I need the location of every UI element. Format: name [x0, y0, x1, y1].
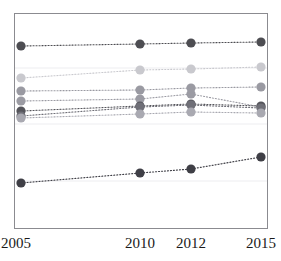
data-point-series-2-2012[interactable]: [186, 64, 195, 73]
data-point-series-3-2010[interactable]: [135, 85, 144, 94]
data-point-series-4-2005[interactable]: [16, 96, 25, 105]
x-tick-label-2010: 2010: [125, 236, 155, 251]
data-point-series-7-2015[interactable]: [256, 108, 265, 117]
data-point-series-2-2005[interactable]: [16, 73, 25, 82]
data-point-series-2-2015[interactable]: [256, 62, 265, 71]
data-point-series-8-2005[interactable]: [16, 178, 25, 187]
data-point-series-1-2010[interactable]: [135, 39, 144, 48]
data-point-series-7-2012[interactable]: [186, 107, 195, 116]
data-point-series-7-2005[interactable]: [16, 113, 25, 122]
slopegraph-chart: 2005201020122015: [0, 0, 281, 261]
data-point-series-1-2005[interactable]: [16, 41, 25, 50]
data-point-series-8-2012[interactable]: [186, 164, 195, 173]
x-tick-label-2015: 2015: [246, 236, 276, 251]
data-point-series-4-2012[interactable]: [186, 89, 195, 98]
gridlines: [14, 68, 267, 181]
x-tick-label-2012: 2012: [176, 236, 206, 251]
data-point-series-3-2015[interactable]: [256, 82, 265, 91]
data-point-series-2-2010[interactable]: [135, 65, 144, 74]
data-point-series-1-2015[interactable]: [256, 37, 265, 46]
data-point-series-8-2010[interactable]: [135, 168, 144, 177]
x-tick-label-2005: 2005: [1, 236, 31, 251]
plot-area: [0, 0, 281, 261]
data-point-series-3-2005[interactable]: [16, 86, 25, 95]
data-point-series-8-2015[interactable]: [256, 152, 265, 161]
data-point-series-1-2012[interactable]: [186, 38, 195, 47]
data-point-series-7-2010[interactable]: [135, 109, 144, 118]
